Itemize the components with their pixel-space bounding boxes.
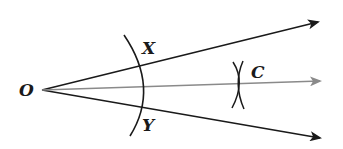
bisector-ray	[42, 81, 320, 90]
lower-ray	[42, 90, 320, 138]
label-point-y: Y	[142, 115, 156, 135]
label-point-x: X	[141, 38, 156, 58]
angle-bisector-diagram: O X Y C	[0, 0, 343, 149]
upper-ray	[42, 22, 318, 90]
label-vertex-o: O	[19, 80, 34, 100]
label-point-c: C	[251, 62, 265, 82]
compass-arc-xy	[124, 35, 144, 136]
